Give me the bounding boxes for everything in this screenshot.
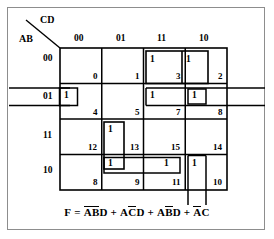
rows-variable-label: AB [19, 34, 33, 44]
column-header-2: 11 [157, 34, 166, 44]
kmap-grid-graphics [0, 0, 274, 239]
row-header-1: 01 [43, 92, 53, 102]
cell-index-3: 3 [176, 72, 181, 81]
cell-value-8a: 1 [192, 91, 197, 101]
cell-value-7: 1 [150, 91, 155, 101]
formula-term-1-char-0: A [120, 206, 128, 218]
cell-index-0: 0 [93, 72, 98, 81]
cell-index-13: 13 [130, 143, 139, 152]
cell-value-11: 1 [164, 159, 169, 169]
cell-index-1: 1 [135, 72, 140, 81]
formula-term-1: ACD [120, 206, 144, 219]
formula-term-3: AC [193, 206, 209, 219]
cell-index-4: 4 [93, 108, 98, 117]
column-header-0: 00 [74, 34, 84, 44]
row-header-2: 11 [43, 131, 52, 141]
formula-lhs: F [64, 206, 71, 218]
formula-equals: = [71, 206, 83, 218]
cell-index-11: 11 [172, 178, 181, 187]
formula-sep-2: + [181, 206, 193, 218]
group-row01-cell8-box [188, 89, 206, 104]
boolean-formula: F=ABD+ACD+ABD+AC [0, 206, 274, 219]
columns-variable-label: CD [40, 15, 54, 25]
row-header-3: 10 [43, 166, 53, 176]
formula-term-2-char-0: A [157, 206, 165, 218]
cell-index-9: 9 [135, 178, 140, 187]
cell-value-3: 1 [150, 55, 155, 65]
column-header-3: 10 [199, 34, 209, 44]
cell-index-15: 15 [171, 143, 180, 152]
cell-value-9: 1 [108, 159, 113, 169]
formula-sep-0: + [108, 206, 120, 218]
formula-term-1-char-2: D [136, 206, 144, 218]
formula-term-3-char-1: C [201, 206, 209, 218]
column-header-1: 01 [116, 34, 126, 44]
cell-value-2: 1 [186, 55, 191, 65]
cell-value-10: 1 [192, 159, 197, 169]
formula-term-2-char-2: D [173, 206, 181, 218]
cell-value-4: 1 [64, 91, 69, 101]
formula-term-0: ABD [84, 206, 108, 219]
cell-index-8a: 8 [218, 108, 223, 117]
formula-term-0-char-2: D [99, 206, 107, 218]
cell-value-13: 1 [108, 125, 113, 135]
formula-term-2: ABD [157, 206, 181, 219]
kmap-figure: CD AB 00 01 11 10 00 01 11 10 0 1 3 2 4 … [0, 0, 274, 239]
cell-index-10: 10 [213, 178, 222, 187]
row-header-0: 00 [43, 54, 53, 64]
cell-index-5: 5 [135, 108, 140, 117]
cell-index-7: 7 [176, 108, 181, 117]
formula-term-2-char-1: B [165, 206, 173, 219]
cell-index-14: 14 [213, 143, 222, 152]
formula-term-0-char-0: A [84, 206, 92, 219]
cell-index-8b: 8 [93, 178, 98, 187]
cell-index-12: 12 [88, 143, 97, 152]
cell-index-2: 2 [218, 72, 223, 81]
formula-sep-1: + [145, 206, 157, 218]
group-col01-rows11-10 [104, 122, 124, 169]
